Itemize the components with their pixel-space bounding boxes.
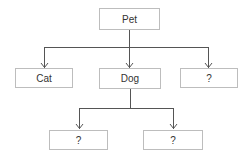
node-unknown-pet: ? [180, 68, 238, 88]
node-dog: Dog [99, 68, 161, 89]
node-unknown-dog-2: ? [143, 130, 203, 150]
node-cat-label: Cat [36, 73, 52, 84]
node-dog-label: Dog [121, 73, 139, 84]
node-unknown-dog-1: ? [49, 130, 108, 150]
node-unknown-dog-2-label: ? [170, 135, 176, 146]
node-pet-label: Pet [122, 14, 137, 25]
node-cat: Cat [15, 68, 73, 88]
node-pet: Pet [99, 8, 160, 30]
node-unknown-dog-1-label: ? [76, 135, 82, 146]
node-unknown-pet-label: ? [206, 73, 212, 84]
